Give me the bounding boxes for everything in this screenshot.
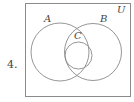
problem-number: 4. <box>7 58 18 71</box>
universe-label: U <box>117 4 126 15</box>
set-a-label: A <box>43 13 51 24</box>
set-c-circle <box>65 42 92 69</box>
set-b-label: B <box>99 13 107 24</box>
venn-diagram: 4. U A B C <box>0 0 134 102</box>
set-c-label: C <box>74 30 82 41</box>
universe-rectangle <box>26 4 131 97</box>
